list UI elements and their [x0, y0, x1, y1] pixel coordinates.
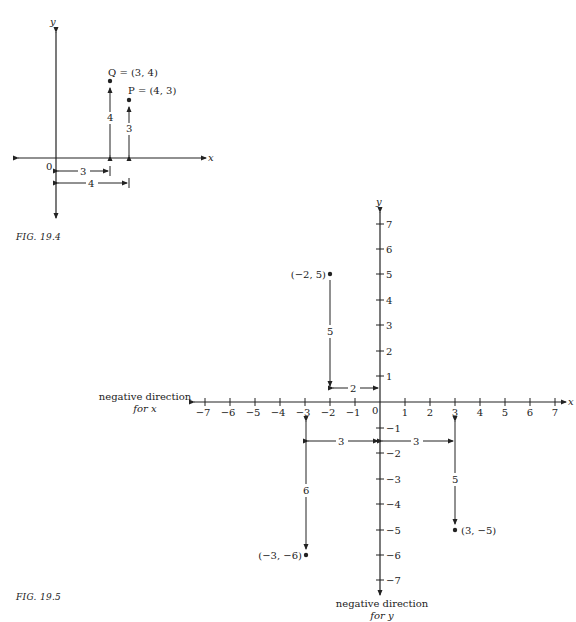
x-axis-label: x	[568, 396, 574, 407]
svg-text:−3: −3	[296, 407, 311, 418]
neg-x-direction-line1: negative direction	[99, 391, 192, 402]
svg-text:−5: −5	[246, 407, 261, 418]
point-p-label: P = (4, 3)	[128, 85, 176, 96]
svg-text:3: 3	[452, 407, 458, 418]
point-q	[108, 79, 112, 83]
a-vertical-label: 5	[327, 326, 333, 337]
b-vertical-label: 6	[303, 485, 309, 496]
figure-19-4: y x 0 Q = (3, 4) 4 P = (4, 3) 3 3 4 FIG.…	[15, 16, 214, 242]
p-horizontal-label: 4	[88, 178, 94, 189]
b-horizontal-label: 3	[338, 436, 344, 447]
figure-19-5: y x 0 −7 −6 −5 −4 −3 −2 −1 1 2 3 4 5	[15, 196, 574, 621]
svg-text:−2: −2	[386, 448, 401, 459]
point-3-neg5-label: (3, −5)	[461, 525, 496, 536]
svg-text:−6: −6	[386, 550, 401, 561]
svg-text:2: 2	[427, 407, 433, 418]
point-q-label: Q = (3, 4)	[108, 67, 158, 78]
svg-text:−1: −1	[386, 423, 401, 434]
y-axis-label: y	[375, 196, 382, 207]
svg-text:7: 7	[386, 219, 392, 230]
neg-y-direction-line1: negative direction	[336, 598, 429, 609]
svg-text:2: 2	[386, 346, 392, 357]
q-vertical-label: 4	[107, 112, 113, 123]
svg-text:5: 5	[386, 269, 392, 280]
svg-text:4: 4	[477, 407, 483, 418]
svg-text:−3: −3	[386, 474, 401, 485]
svg-text:−4: −4	[271, 407, 286, 418]
neg-x-direction-line2: for x	[132, 403, 157, 414]
figure-caption-19-4: FIG. 19.4	[15, 232, 61, 242]
svg-text:3: 3	[386, 320, 392, 331]
svg-text:6: 6	[527, 407, 533, 418]
svg-text:4: 4	[386, 295, 392, 306]
x-axis-label: x	[208, 152, 214, 163]
a-horizontal-label: 2	[350, 383, 356, 394]
neg-y-direction-line2: for y	[369, 610, 394, 621]
p-vertical-label: 3	[126, 123, 132, 134]
point-p	[127, 98, 131, 102]
svg-text:7: 7	[552, 407, 558, 418]
point-neg2-5	[328, 272, 332, 276]
figure-canvas: y x 0 Q = (3, 4) 4 P = (4, 3) 3 3 4 FIG.…	[0, 0, 576, 622]
c-horizontal-label: 3	[413, 436, 419, 447]
figure-caption-19-5: FIG. 19.5	[15, 592, 61, 602]
svg-text:−2: −2	[321, 407, 336, 418]
point-neg2-5-label: (−2, 5)	[291, 269, 326, 280]
svg-text:−4: −4	[386, 499, 401, 510]
point-neg3-neg6	[304, 553, 308, 557]
point-3-neg5	[453, 528, 457, 532]
svg-text:−7: −7	[196, 407, 211, 418]
svg-text:−5: −5	[386, 525, 401, 536]
origin-label: 0	[46, 161, 52, 172]
svg-text:−6: −6	[221, 407, 236, 418]
svg-text:1: 1	[386, 371, 392, 382]
svg-text:−7: −7	[386, 575, 401, 586]
y-axis-label: y	[49, 16, 56, 27]
origin-label: 0	[372, 405, 378, 416]
svg-text:1: 1	[402, 407, 408, 418]
svg-text:6: 6	[386, 244, 392, 255]
point-neg3-neg6-label: (−3, −6)	[258, 550, 302, 561]
svg-text:5: 5	[502, 407, 508, 418]
c-vertical-label: 5	[452, 474, 458, 485]
q-horizontal-label: 3	[80, 166, 86, 177]
svg-text:−1: −1	[346, 407, 361, 418]
